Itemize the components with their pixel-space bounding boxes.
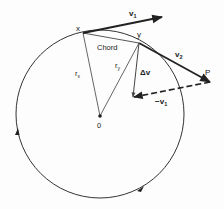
label-center: 0	[97, 121, 101, 130]
label-point-p: P	[205, 68, 210, 77]
label-neg-v1: −v1	[155, 97, 167, 107]
label-point-y: y	[137, 30, 141, 39]
label-r-x: rx	[75, 69, 81, 79]
label-delta-v: Δv	[140, 68, 151, 77]
circular-motion-diagram: x y P 0 Chord v1 v2 Δv −v1 rx ry	[0, 0, 224, 209]
label-chord: Chord	[97, 43, 117, 52]
chord-line	[83, 33, 139, 43]
label-point-x: x	[76, 24, 80, 33]
label-r-y: ry	[115, 61, 121, 71]
label-v2: v2	[175, 50, 183, 60]
vector-v1	[83, 17, 162, 33]
radius-y	[100, 43, 139, 116]
center-point	[98, 114, 102, 118]
vector-delta-v	[133, 43, 139, 97]
label-v1: v1	[129, 9, 137, 19]
vector-neg-v1	[134, 82, 210, 97]
